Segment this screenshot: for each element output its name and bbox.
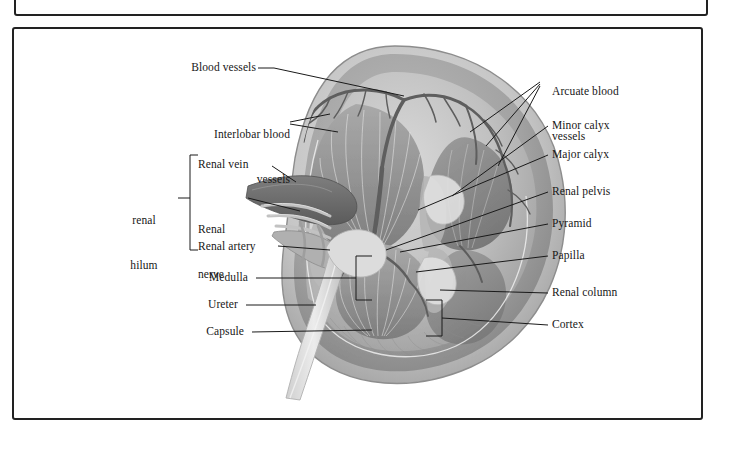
label-renal-hilum: renal hilum (112, 183, 176, 303)
frame-box-above (14, 0, 708, 16)
label-capsule: Capsule (130, 324, 244, 339)
label-arcuate-line1: Arcuate blood (552, 84, 619, 99)
label-renal-hilum-line1: renal (112, 213, 176, 228)
figure-page: Blood vessels Interlobar blood vessels R… (0, 0, 746, 449)
label-blood-vessels: Blood vessels (108, 60, 256, 75)
label-pyramid: Pyramid (552, 216, 592, 231)
label-interlobar-line1: Interlobar blood (150, 127, 290, 142)
label-renal-pelvis: Renal pelvis (552, 184, 610, 199)
label-renal-vein: Renal vein (198, 157, 249, 172)
label-renal-nerve-line1: Renal (198, 222, 225, 237)
label-renal-artery: Renal artery (198, 239, 256, 254)
label-papilla: Papilla (552, 248, 585, 263)
label-minor-calyx: Minor calyx (552, 118, 610, 133)
label-renal-column: Renal column (552, 285, 617, 300)
label-cortex: Cortex (552, 317, 584, 332)
label-major-calyx: Major calyx (552, 147, 609, 162)
label-renal-hilum-line2: hilum (112, 258, 176, 273)
